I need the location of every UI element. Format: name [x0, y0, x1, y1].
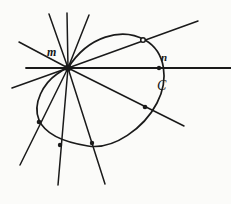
line-ray-lower-right — [68, 68, 184, 126]
label-curve-c: C — [157, 79, 166, 93]
point-m-hub — [65, 65, 72, 72]
line-ray-down-right — [68, 68, 105, 184]
line-ray-up-center — [67, 13, 68, 68]
point-intersection-upper-right — [141, 38, 146, 43]
figure-container: m n C — [0, 0, 231, 204]
line-ray-up-right-steep — [68, 15, 89, 68]
label-point-n: n — [161, 52, 167, 63]
pencil-of-lines — [12, 13, 231, 185]
point-intersection-bottom-right — [90, 141, 94, 145]
line-ray-upper-right — [68, 21, 198, 68]
point-n — [157, 66, 161, 70]
label-point-m: m — [47, 46, 56, 58]
geometry-diagram-svg — [0, 0, 231, 204]
point-intersection-bottom-left — [58, 143, 62, 147]
point-intersection-left — [37, 120, 42, 125]
point-intersection-lower-right — [143, 105, 148, 110]
